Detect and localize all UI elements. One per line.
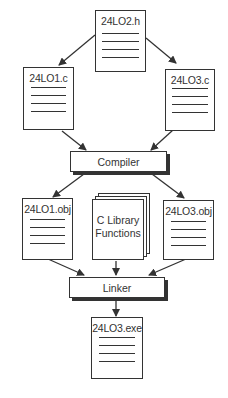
text-line-icon [172, 88, 208, 89]
stack-page-front: C Library Functions [92, 199, 144, 260]
text-line-icon [31, 95, 66, 96]
source1-label: 24LO1.c [24, 72, 73, 84]
text-line-icon [99, 345, 135, 346]
text-line-icon [30, 243, 65, 244]
text-line-icon [99, 337, 135, 338]
library-label-line1: C Library [93, 214, 143, 226]
source1-document: 24LO1.c [23, 67, 74, 130]
arrow-source3-to-compiler [151, 130, 173, 150]
compiler-label: Compiler [97, 156, 139, 168]
arrow-compiler-to-obj3 [152, 174, 184, 198]
obj1-label: 24LO1.obj [23, 203, 72, 215]
obj3-document: 24LO3.obj [163, 200, 214, 260]
arrow-obj1-to-linker [48, 259, 84, 275]
source3-label: 24LO3.c [166, 74, 214, 86]
text-line-icon [99, 353, 135, 354]
text-line-icon [31, 111, 66, 112]
text-line-icon [31, 103, 66, 104]
arrow-obj3-to-linker [149, 259, 186, 275]
c-library-document-stack: C Library Functions [92, 193, 154, 261]
text-line-icon [171, 229, 206, 230]
text-line-icon [30, 227, 65, 228]
obj1-document: 24LO1.obj [22, 198, 73, 260]
text-line-icon [30, 219, 65, 220]
executable-document: 24LO3.exe [91, 317, 143, 379]
linker-label: Linker [103, 282, 132, 294]
text-line-icon [172, 96, 208, 97]
text-line-icon [102, 57, 139, 58]
text-line-icon [172, 112, 208, 113]
arrow-header-to-source1 [59, 35, 95, 65]
text-line-icon [30, 235, 65, 236]
library-label-line2: Functions [93, 227, 143, 239]
linker-process-box: Linker [69, 277, 165, 298]
obj3-label: 24LO3.obj [164, 205, 213, 217]
text-line-icon [31, 87, 66, 88]
text-line-icon [172, 104, 208, 105]
compiler-process-box: Compiler [70, 151, 167, 172]
arrow-compiler-to-obj1 [53, 174, 84, 197]
text-line-icon [171, 221, 206, 222]
executable-label: 24LO3.exe [92, 322, 142, 334]
header-file-document: 24LO2.h [95, 10, 146, 72]
text-line-icon [102, 49, 139, 50]
text-line-icon [99, 361, 135, 362]
arrow-source1-to-compiler [62, 131, 86, 150]
source3-document: 24LO3.c [165, 69, 215, 131]
arrow-header-to-source3 [146, 38, 176, 63]
text-line-icon [102, 33, 139, 34]
text-line-icon [102, 41, 139, 42]
text-line-icon [171, 237, 206, 238]
text-line-icon [171, 245, 206, 246]
build-diagram: 24LO2.h 24LO1.c 24LO3.c Compiler 24LO1.o… [0, 0, 228, 398]
header-file-label: 24LO2.h [96, 15, 145, 27]
